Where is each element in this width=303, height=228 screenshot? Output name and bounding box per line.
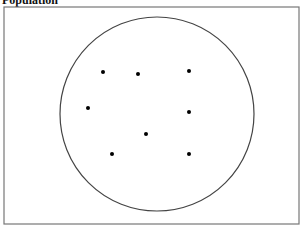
- population-diagram: [0, 0, 303, 228]
- frame-border: [4, 7, 299, 224]
- sample-point: [110, 152, 114, 156]
- sample-point: [187, 110, 191, 114]
- sample-points: [86, 69, 191, 156]
- sample-point: [187, 152, 191, 156]
- sample-point: [144, 132, 148, 136]
- population-circle: [60, 17, 254, 211]
- sample-point: [86, 106, 90, 110]
- sample-point: [187, 69, 191, 73]
- sample-point: [101, 70, 105, 74]
- sample-point: [136, 72, 140, 76]
